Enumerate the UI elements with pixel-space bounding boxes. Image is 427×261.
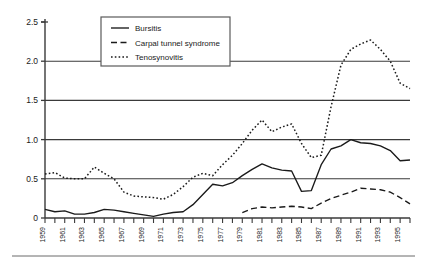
y-tick-label: 2.0 [26, 56, 38, 66]
x-tick-label: 1975 [197, 227, 204, 243]
y-tick-label: 0.5 [26, 174, 38, 184]
y-tick-label: 1.5 [26, 95, 38, 105]
x-tick-label: 1985 [295, 227, 302, 243]
y-tick-label: 0 [33, 213, 38, 223]
x-tick-label: 1977 [217, 227, 224, 243]
x-tick-label: 1987 [315, 227, 322, 243]
x-tick-label: 1979 [236, 227, 243, 243]
legend-label: Tenosynovitis [135, 53, 183, 62]
x-tick-label: 1959 [39, 227, 46, 243]
x-tick-label: 1993 [374, 227, 381, 243]
x-tick-label: 1983 [276, 227, 283, 243]
y-tick-label: 1.0 [26, 135, 38, 145]
chart-figure: 00.51.01.52.02.5195919611963196519671969… [0, 0, 427, 261]
x-tick-label: 1971 [157, 227, 164, 243]
x-tick-label: 1965 [98, 227, 105, 243]
y-tick-label: 2.5 [26, 17, 38, 27]
legend-label: Bursitis [135, 24, 161, 33]
x-tick-label: 1969 [138, 227, 145, 243]
legend-label: Carpal tunnel syndrome [135, 39, 220, 48]
line-chart-svg: 00.51.01.52.02.5195919611963196519671969… [0, 0, 427, 261]
x-tick-label: 1967 [118, 227, 125, 243]
x-tick-label: 1991 [355, 227, 362, 243]
x-tick-label: 1989 [335, 227, 342, 243]
x-tick-label: 1961 [59, 227, 66, 243]
x-tick-label: 1973 [177, 227, 184, 243]
x-tick-label: 1981 [256, 227, 263, 243]
x-tick-label: 1995 [394, 227, 401, 243]
x-tick-label: 1963 [78, 227, 85, 243]
